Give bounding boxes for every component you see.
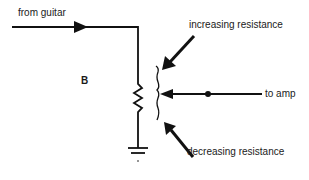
junction-dot [205,91,211,97]
output-label: to amp [265,89,296,99]
input-wire [12,27,138,80]
wiper-track [156,66,159,120]
figure-letter: B [81,76,88,86]
input-label: from guitar [18,8,66,18]
resistor-icon [134,80,142,148]
wiper-arrow-icon [160,89,173,99]
increase-label: increasing resistance [189,20,283,30]
increase-arrow-icon [170,36,194,62]
input-arrow-icon [74,21,88,33]
decrease-label: decreasing resistance [187,147,284,157]
